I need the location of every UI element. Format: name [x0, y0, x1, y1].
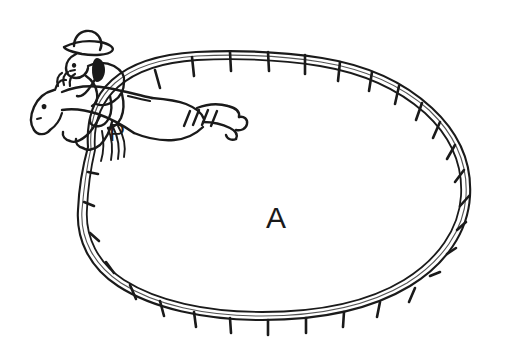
horse-nostril — [37, 118, 41, 119]
fence-post — [343, 312, 344, 327]
horse-hoof-front-a — [63, 132, 70, 141]
fence-post — [268, 52, 269, 71]
horse-eye — [42, 104, 47, 109]
cowboy-rider — [64, 31, 150, 128]
horse-hind-leg-lower — [203, 122, 237, 139]
motion-line — [193, 110, 199, 125]
sketch-illustration: A P — [0, 0, 514, 350]
fence-post — [230, 318, 231, 333]
horse-neck-top — [62, 86, 152, 98]
horse-hoof-rear-lower — [226, 135, 236, 140]
fence-post — [395, 86, 399, 104]
horse-head-outline — [31, 90, 54, 134]
horse-hoof-rear-upper — [236, 117, 247, 130]
horse-jaw — [50, 113, 62, 130]
fence-post — [155, 70, 160, 88]
fence-post — [430, 272, 440, 276]
cowboy-eye — [72, 63, 76, 68]
point-label-p: P — [109, 119, 125, 146]
fence-post — [230, 52, 231, 71]
fence-post — [84, 202, 94, 206]
fence-post — [160, 301, 164, 316]
motion-line — [184, 111, 190, 126]
cowboy-mouth — [70, 70, 75, 71]
region-label-a: A — [266, 201, 286, 234]
cowboy-head — [66, 54, 88, 78]
sketch-canvas: A P — [0, 0, 514, 350]
cowboy-hat-brim — [64, 41, 113, 55]
horse-belly — [134, 127, 203, 140]
fence-post — [377, 302, 380, 317]
fence-post — [409, 288, 415, 302]
fence-post — [88, 172, 98, 174]
cowboy-vest-shading — [92, 58, 105, 82]
